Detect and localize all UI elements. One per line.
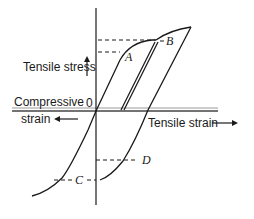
origin-label: 0 (86, 97, 93, 109)
point-C-label: C (75, 174, 83, 186)
point-A-label: A (125, 51, 132, 63)
arrow-left-icon (54, 116, 60, 122)
diagram-graphics (0, 0, 254, 219)
point-D-label: D (142, 154, 151, 166)
compressive-label: Compressive (14, 96, 84, 108)
stress-strain-diagram: Tensile stress Compressive strain Tensil… (0, 0, 254, 219)
tensile-strain-label: Tensile strain (148, 117, 218, 129)
point-B-label: B (166, 35, 173, 47)
tensile-stress-label: Tensile stress (23, 61, 96, 73)
compressive-strain-label: strain (21, 113, 50, 125)
arrow-right-icon (232, 120, 238, 126)
